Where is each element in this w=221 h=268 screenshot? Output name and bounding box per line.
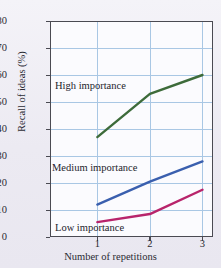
y-axis-tick xyxy=(46,237,50,238)
x-axis-title: Number of repetitions xyxy=(0,251,221,262)
y-axis-tick-label: 60 xyxy=(0,70,7,81)
y-axis-tick xyxy=(46,156,50,157)
x-axis-tick-label: 3 xyxy=(190,239,214,250)
figure: 01020304050607080123 Recall of ideas (%)… xyxy=(0,0,221,268)
y-axis-tick xyxy=(46,21,50,22)
y-axis-tick xyxy=(46,183,50,184)
series-annotation-medium-importance: Medium importance xyxy=(52,163,137,174)
y-axis-tick-label: 10 xyxy=(0,205,7,216)
y-axis-tick-label: 70 xyxy=(0,43,7,54)
y-axis-tick-label: 0 xyxy=(0,232,7,243)
y-axis-tick-label: 50 xyxy=(0,97,7,108)
y-axis-tick-label: 80 xyxy=(0,16,7,27)
x-axis-tick-label: 2 xyxy=(138,239,162,250)
series-annotation-low-importance: Low importance xyxy=(55,223,124,234)
y-axis-tick xyxy=(46,210,50,211)
y-axis-title: Recall of ideas (%) xyxy=(16,27,27,157)
series-annotation-high-importance: High importance xyxy=(55,81,126,92)
y-axis-tick xyxy=(46,75,50,76)
x-axis-tick-label: 1 xyxy=(85,239,109,250)
y-axis-tick-label: 40 xyxy=(0,124,7,135)
y-axis-tick xyxy=(46,129,50,130)
y-axis-tick-label: 20 xyxy=(0,178,7,189)
y-axis-tick xyxy=(46,48,50,49)
y-axis-tick-label: 30 xyxy=(0,151,7,162)
y-axis-tick xyxy=(46,102,50,103)
